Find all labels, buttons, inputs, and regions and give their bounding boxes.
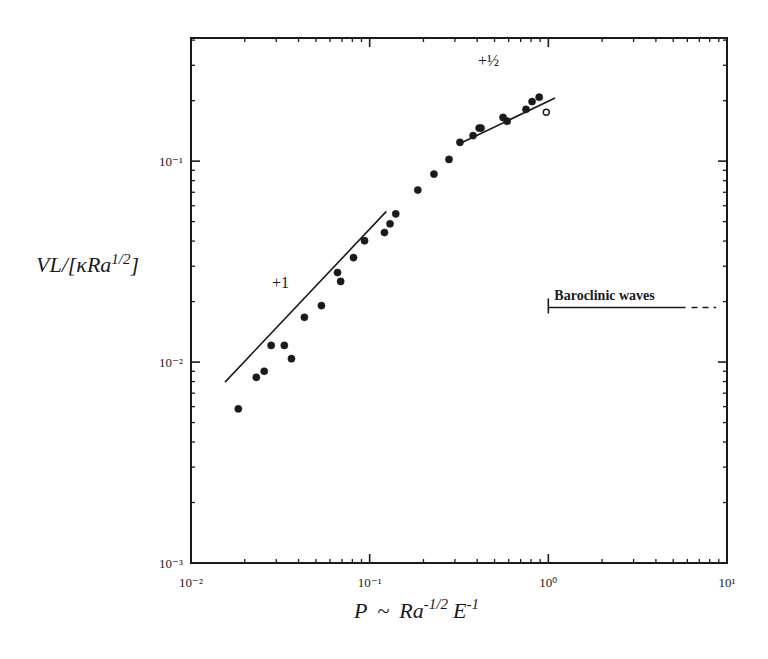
data-point [522, 106, 529, 113]
data-point [536, 94, 543, 101]
x-tick-label: 10⁰ [539, 575, 557, 590]
chart: 10⁻²10⁻¹10⁰10¹ 10⁻³10⁻²10⁻¹ +1+½Baroclin… [0, 0, 768, 659]
data-point [392, 210, 399, 217]
data-point [504, 118, 511, 125]
data-point [334, 269, 341, 276]
x-axis-title: P~Ra-1/2E-1 [353, 596, 479, 623]
data-point [456, 139, 463, 146]
y-axis-title: VL/[κRa1/2] [36, 251, 139, 277]
data-point [288, 355, 295, 362]
data-point [350, 254, 357, 261]
y-tick-label: 10⁻² [159, 355, 183, 370]
data-point [528, 98, 535, 105]
data-point [318, 302, 325, 309]
x-tick-labels: 10⁻²10⁻¹10⁰10¹ [179, 575, 736, 590]
x-tick-label: 10⁻² [179, 575, 203, 590]
data-point [381, 229, 388, 236]
x-tick-label: 10⁻¹ [358, 575, 382, 590]
data-point [301, 314, 308, 321]
data-point [337, 278, 344, 285]
y-tick-labels: 10⁻³10⁻²10⁻¹ [159, 154, 183, 571]
data-point [281, 342, 288, 349]
data-point-open [543, 109, 549, 115]
data-point [253, 374, 260, 381]
x-tick-label: 10¹ [719, 575, 736, 590]
data-point [261, 368, 268, 375]
regime-label: Baroclinic waves [554, 288, 655, 303]
data-point [361, 237, 368, 244]
data-point [268, 342, 275, 349]
y-tick-label: 10⁻¹ [159, 154, 183, 169]
data-point [414, 186, 421, 193]
data-point [477, 125, 484, 132]
slope-label: +½ [478, 52, 499, 69]
annotations: +1+½Baroclinic waves [225, 52, 716, 382]
data-point [469, 132, 476, 139]
data-point [386, 220, 393, 227]
slope-label: +1 [272, 274, 289, 291]
data-points [235, 94, 550, 413]
data-point [445, 156, 452, 163]
slope-line [225, 211, 386, 382]
y-tick-label: 10⁻³ [159, 556, 183, 571]
data-point [430, 170, 437, 177]
data-point [235, 405, 242, 412]
